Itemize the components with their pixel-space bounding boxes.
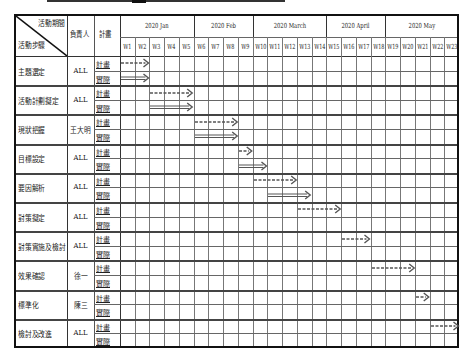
week-divider <box>238 37 239 346</box>
week-label: W4 <box>166 43 176 51</box>
week-divider <box>208 37 209 346</box>
subrow-divider <box>94 246 457 247</box>
col-divider <box>94 16 95 346</box>
plan-sublabel: 計畫 <box>96 147 110 157</box>
plan-sublabel: 計畫 <box>96 117 110 127</box>
week-label: W22 <box>432 43 442 51</box>
plan-arrow-icon <box>342 235 369 243</box>
week-divider <box>341 37 342 346</box>
week-label: W11 <box>270 43 280 51</box>
header-divider <box>120 37 457 38</box>
plan-sublabel: 計畫 <box>96 59 110 69</box>
step-label: 目標設定 <box>18 153 45 164</box>
title-underline <box>47 0 285 2</box>
actual-sublabel: 實際 <box>96 132 110 142</box>
month-label: 2020 Feb <box>201 22 245 30</box>
gantt-chart: 活動期間 活動步驟 負責人 計畫 2020 Jan2020 Feb2020 Ma… <box>14 14 459 348</box>
corner-period-label: 活動期間 <box>38 20 65 28</box>
owner-label: ALL <box>69 153 92 162</box>
owner-label: 徐一 <box>69 270 92 281</box>
title-mark <box>132 0 146 3</box>
week-divider <box>179 37 180 346</box>
week-label: W9 <box>240 43 250 51</box>
plan-sublabel: 計畫 <box>96 234 110 244</box>
step-label: 標準化 <box>18 299 38 310</box>
row-divider <box>16 202 457 204</box>
step-label: 檢討及改進 <box>18 328 52 339</box>
actual-sublabel: 實際 <box>96 249 110 259</box>
subrow-divider <box>94 187 457 188</box>
owner-label: ALL <box>69 328 92 337</box>
week-divider <box>135 37 136 346</box>
step-label: 效果確認 <box>18 270 45 281</box>
owner-label: ALL <box>69 182 92 191</box>
month-label: 2020 Jan <box>129 22 184 30</box>
plan-arrow-icon <box>416 293 429 301</box>
actual-sublabel: 實際 <box>96 220 110 230</box>
week-divider <box>149 37 150 346</box>
week-divider <box>385 37 386 346</box>
week-label: W1 <box>122 43 132 51</box>
row-divider <box>16 290 457 292</box>
row-divider <box>16 85 457 87</box>
actual-sublabel: 實際 <box>96 278 110 288</box>
actual-arrow-icon <box>121 74 148 82</box>
plan-header: 計畫 <box>99 31 112 39</box>
owner-label: ALL <box>69 66 92 75</box>
week-divider <box>253 37 254 346</box>
week-label: W10 <box>255 43 265 51</box>
week-label: W3 <box>152 43 162 51</box>
subrow-divider <box>94 129 457 130</box>
plan-sublabel: 計畫 <box>96 263 110 273</box>
week-label: W20 <box>402 43 412 51</box>
row-divider <box>16 144 457 146</box>
plan-arrow-icon <box>121 59 148 67</box>
week-divider <box>326 37 327 346</box>
plan-arrow-icon <box>431 322 458 330</box>
corner-steps-label: 活動步驟 <box>18 42 45 50</box>
plan-arrow-icon <box>195 118 237 126</box>
step-label: 對策擬定 <box>18 212 45 223</box>
header-divider <box>16 56 457 57</box>
actual-sublabel: 實際 <box>96 74 110 84</box>
plan-sublabel: 計畫 <box>96 322 110 332</box>
week-label: W16 <box>343 43 353 51</box>
week-label: W15 <box>329 43 339 51</box>
week-divider <box>194 37 195 346</box>
week-label: W7 <box>211 43 221 51</box>
actual-arrow-icon <box>268 191 310 199</box>
actual-sublabel: 實際 <box>96 103 110 113</box>
row-divider <box>16 114 457 116</box>
week-label: W21 <box>417 43 427 51</box>
week-label: W19 <box>388 43 398 51</box>
step-label: 活動計劃擬定 <box>18 95 59 106</box>
plan-arrow-icon <box>298 205 340 213</box>
step-label: 主題選定 <box>18 66 45 77</box>
subrow-divider <box>94 275 457 276</box>
week-label: W6 <box>196 43 206 51</box>
week-divider <box>223 37 224 346</box>
row-divider <box>16 173 457 175</box>
month-label: 2020 March <box>262 22 317 30</box>
plan-sublabel: 計畫 <box>96 205 110 215</box>
subrow-divider <box>94 333 457 334</box>
plan-arrow-icon <box>372 264 414 272</box>
actual-sublabel: 實際 <box>96 190 110 200</box>
week-label: W13 <box>299 43 309 51</box>
step-label: 對策實施及檢討 <box>18 241 66 252</box>
owner-label: 陳三 <box>69 299 92 310</box>
week-label: W23 <box>446 43 456 51</box>
month-label: 2020 April <box>334 22 378 30</box>
subrow-divider <box>94 71 457 72</box>
week-divider <box>371 37 372 346</box>
owner-label: ALL <box>69 241 92 250</box>
col-divider <box>67 16 68 346</box>
week-label: W2 <box>137 43 147 51</box>
subrow-divider <box>94 158 457 159</box>
week-divider <box>444 37 445 346</box>
owner-header: 負責人 <box>70 31 89 39</box>
actual-sublabel: 實際 <box>96 307 110 317</box>
actual-sublabel: 實際 <box>96 161 110 171</box>
week-label: W12 <box>284 43 294 51</box>
week-divider <box>430 37 431 346</box>
